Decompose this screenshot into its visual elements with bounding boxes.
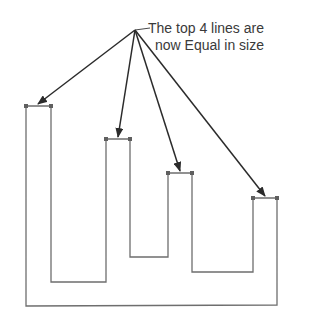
vertex-point bbox=[49, 104, 53, 108]
arrow-to-segment-2 bbox=[118, 30, 135, 137]
vertex-point bbox=[275, 196, 279, 200]
vertex-markers bbox=[24, 104, 279, 200]
annotation-line-1: The top 4 lines are bbox=[148, 19, 264, 37]
vertex-point bbox=[166, 171, 170, 175]
arrow-to-segment-1 bbox=[38, 30, 135, 104]
vertex-point bbox=[190, 171, 194, 175]
arrow-to-segment-4 bbox=[135, 30, 265, 196]
vertex-point bbox=[104, 137, 108, 141]
arrows bbox=[38, 30, 265, 196]
annotation-line-2: now Equal in size bbox=[155, 36, 264, 54]
stepped-outline-shape bbox=[26, 106, 277, 306]
vertex-point bbox=[128, 137, 132, 141]
vertex-point bbox=[251, 196, 255, 200]
vertex-point bbox=[24, 104, 28, 108]
